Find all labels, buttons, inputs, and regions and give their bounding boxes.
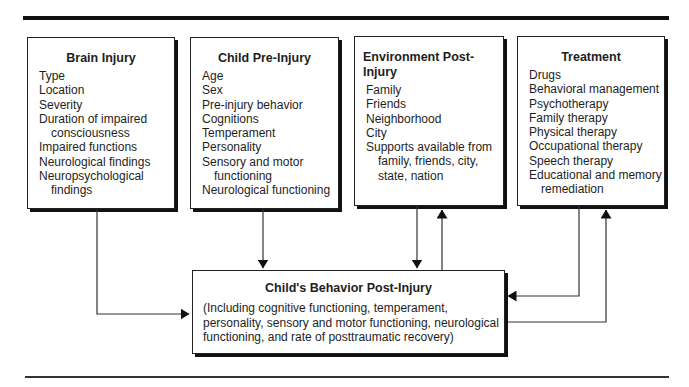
- box-child-behavior-post-injury: Child's Behavior Post-Injury (Including …: [192, 270, 505, 354]
- arrow-treatment-up: [506, 210, 606, 322]
- outcome-description: (Including cognitive functioning, temper…: [203, 301, 504, 345]
- bottom-rule: [25, 376, 669, 378]
- arrow-brain-injury: [97, 209, 189, 314]
- arrow-treatment-down: [508, 206, 579, 296]
- outcome-title: Child's Behavior Post-Injury: [193, 281, 504, 296]
